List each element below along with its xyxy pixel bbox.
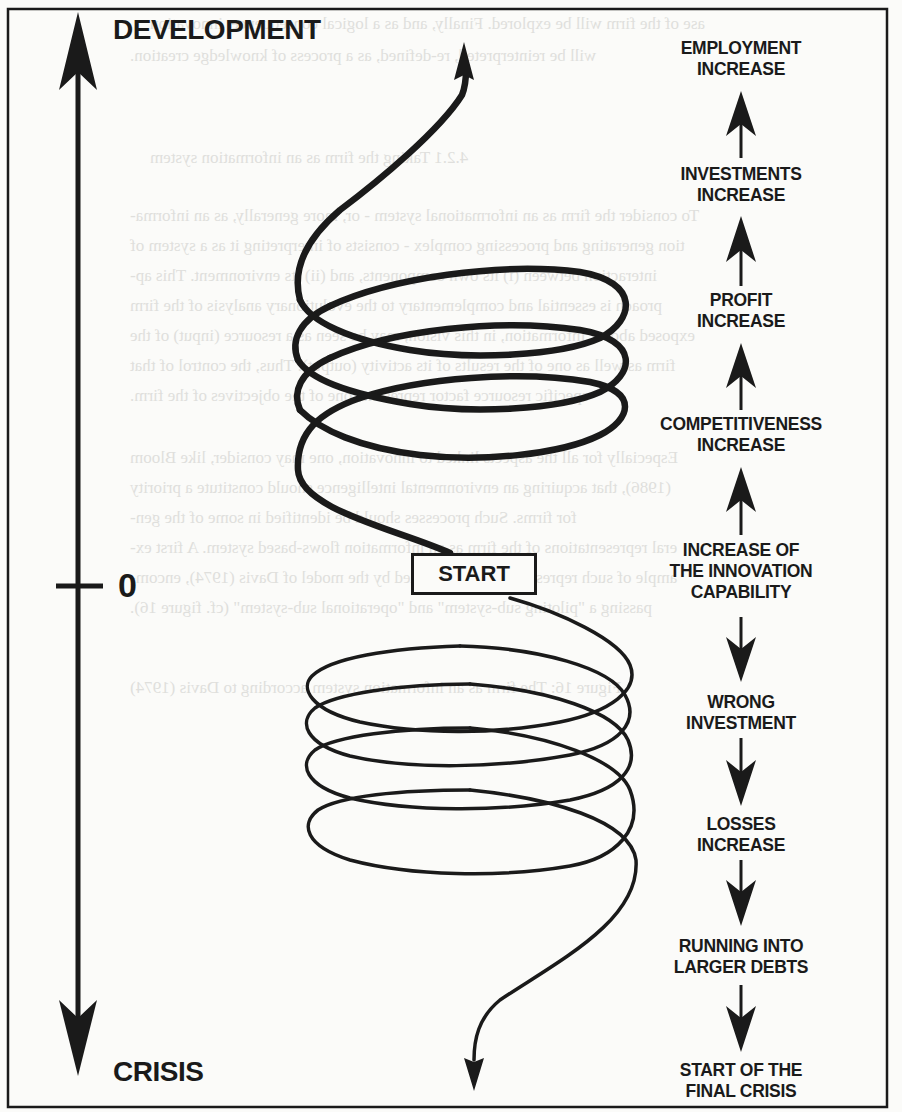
lower-crisis-spiral (307, 598, 637, 1060)
stage-line: LARGER DEBTS (641, 957, 841, 978)
stage-losses-increase: LOSSES INCREASE (641, 814, 841, 856)
stage-investments-increase: INVESTMENTS INCREASE (641, 164, 841, 206)
stage-line: CAPABILITY (641, 582, 841, 603)
arrow-up-icon (726, 216, 756, 286)
stage-line: WRONG (641, 692, 841, 713)
stage-line: COMPETITIVENESS (641, 414, 841, 435)
start-box: START (411, 553, 537, 595)
origin-zero-label: 0 (118, 566, 137, 605)
stage-line: LOSSES (641, 814, 841, 835)
stage-line: FINAL CRISIS (641, 1081, 841, 1102)
stage-start-of-final-crisis: START OF THE FINAL CRISIS (641, 1060, 841, 1102)
arrow-down-icon (726, 985, 756, 1052)
stage-line: PROFIT (641, 290, 841, 311)
stage-profit-increase: PROFIT INCREASE (641, 290, 841, 332)
arrow-down-icon (726, 860, 756, 926)
arrow-up-icon (726, 343, 756, 410)
development-label: DEVELOPMENT (113, 14, 321, 46)
spiral-arrow-down-icon (464, 1058, 484, 1091)
development-crisis-axis (56, 12, 103, 1076)
stage-line: INVESTMENT (641, 713, 841, 734)
stage-innovation-capability-increase: INCREASE OF THE INNOVATION CAPABILITY (641, 540, 841, 603)
stage-line: INCREASE (641, 435, 841, 456)
start-label: START (438, 561, 510, 587)
stage-line: INCREASE (641, 835, 841, 856)
diagram-canvas: ase of the firm will be explored. Finall… (0, 0, 902, 1112)
stage-line: START OF THE (641, 1060, 841, 1081)
arrow-up-icon (726, 467, 756, 535)
stage-running-into-larger-debts: RUNNING INTO LARGER DEBTS (641, 936, 841, 978)
stage-employment-increase: EMPLOYMENT INCREASE (641, 38, 841, 80)
stage-line: INCREASE OF (641, 540, 841, 561)
stage-line: INCREASE (641, 59, 841, 80)
stage-line: INVESTMENTS (641, 164, 841, 185)
arrow-down-icon (726, 738, 756, 806)
stage-line: RUNNING INTO (641, 936, 841, 957)
stage-line: INCREASE (641, 311, 841, 332)
stage-line: EMPLOYMENT (641, 38, 841, 59)
arrow-up-icon (726, 91, 756, 158)
crisis-label: CRISIS (113, 1056, 203, 1088)
arrow-down-icon (726, 617, 756, 682)
stage-competitiveness-increase: COMPETITIVENESS INCREASE (641, 414, 841, 456)
spiral-arrow-up-icon (454, 42, 474, 80)
stage-line: THE INNOVATION (641, 561, 841, 582)
stage-line: INCREASE (641, 185, 841, 206)
upper-development-spiral (295, 70, 625, 553)
stage-wrong-investment: WRONG INVESTMENT (641, 692, 841, 734)
